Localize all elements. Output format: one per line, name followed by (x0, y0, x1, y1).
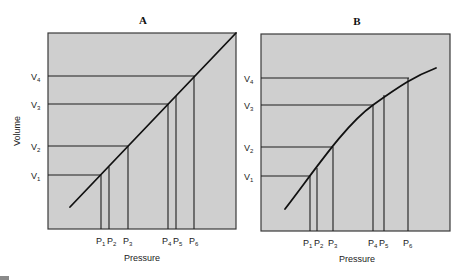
panel-a-label-p4: P4 (162, 236, 172, 247)
panel-b-label-p1: P1 (303, 238, 313, 249)
panel-b-label-v4: V4 (244, 74, 254, 85)
pressure-volume-figure: A V1 V2 V3 V4 P1 P2 P3 P4 P5 P6 Pressure… (0, 0, 468, 280)
panel-a-label-v1: V1 (31, 171, 41, 182)
panel-a-label-v2: V2 (31, 142, 41, 153)
panel-b-plot-area (261, 34, 450, 231)
panel-b-label-v2: V2 (244, 143, 254, 154)
panel-b-xlabel: Pressure (339, 254, 375, 264)
panel-a-label-p2: P2 (107, 236, 117, 247)
panel-a-label-p3: P3 (123, 236, 133, 247)
panel-b-label-p3: P3 (328, 238, 338, 249)
panel-a-xlabel: Pressure (124, 253, 160, 263)
panel-b-label-p5: P5 (379, 238, 389, 249)
panel-b-label-v1: V1 (244, 172, 254, 183)
panel-a-ylabel: Volume (12, 116, 22, 146)
panel-a-label-p5: P5 (173, 236, 183, 247)
panel-a-title: A (139, 14, 147, 26)
panel-b-label-p4: P4 (368, 238, 378, 249)
panel-b-title: B (353, 15, 361, 27)
panel-b: B V1 V2 V3 V4 P1 P2 P3 P4 P5 P6 Pressure (244, 15, 450, 264)
panel-a-label-v3: V3 (31, 100, 41, 111)
panel-b-label-p2: P2 (314, 238, 324, 249)
panel-b-label-p6: P6 (403, 238, 413, 249)
panel-a-label-p1: P1 (96, 236, 106, 247)
panel-a-label-p6: P6 (189, 236, 199, 247)
corner-mark (0, 276, 9, 280)
panel-a: A V1 V2 V3 V4 P1 P2 P3 P4 P5 P6 Pressure… (12, 14, 236, 263)
panel-a-label-v4: V4 (31, 72, 41, 83)
panel-b-label-v3: V3 (244, 101, 254, 112)
